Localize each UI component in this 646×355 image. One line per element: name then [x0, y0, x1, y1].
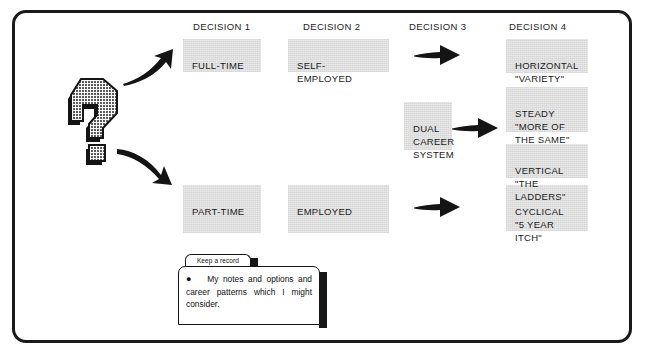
box-employed-label: EMPLOYED	[297, 206, 352, 217]
box-full-time-label: FULL-TIME	[192, 60, 244, 71]
note-body-text: My notes and options and career patterns…	[186, 274, 312, 309]
diagram-frame: DECISION 1 DECISION 2 DECISION 3 DECISIO…	[12, 10, 632, 343]
note-body: ● My notes and options and career patter…	[178, 266, 320, 325]
straight-arrow-decision3-top-icon	[414, 43, 462, 67]
straight-arrow-dual-career-icon	[452, 116, 500, 140]
column-header-decision-3: DECISION 3	[409, 21, 466, 32]
note-text-block: ● My notes and options and career patter…	[186, 273, 312, 311]
keep-a-record-note[interactable]: Keep a record ● My notes and options and…	[178, 254, 330, 326]
box-self-employed-label: SELF-EMPLOYED	[297, 60, 352, 84]
box-dual-career-system[interactable]: DUAL CAREER SYSTEM	[404, 102, 452, 150]
note-shadow	[319, 272, 327, 328]
box-cyclical-5-year-itch-label: CYCLICAL "5 YEAR ITCH"	[515, 206, 564, 243]
straight-arrow-decision3-bottom-icon	[414, 195, 462, 219]
note-bullet: ●	[186, 274, 194, 284]
box-part-time-label: PART-TIME	[192, 206, 245, 217]
curved-arrow-down-icon	[115, 145, 179, 189]
box-horizontal-variety-label: HORIZONTAL "VARIETY"	[515, 60, 579, 84]
column-header-decision-2: DECISION 2	[303, 21, 360, 32]
column-header-decision-1: DECISION 1	[193, 21, 250, 32]
box-vertical-the-ladders-label: VERTICAL "THE LADDERS"	[515, 165, 566, 202]
box-horizontal-variety[interactable]: HORIZONTAL "VARIETY"	[506, 39, 588, 73]
box-part-time[interactable]: PART-TIME	[183, 185, 261, 233]
box-steady-more-of-the-same-label: STEADY "MORE OF THE SAME"	[515, 108, 570, 145]
box-dual-career-system-label: DUAL CAREER SYSTEM	[413, 123, 454, 160]
box-vertical-the-ladders[interactable]: VERTICAL "THE LADDERS"	[506, 144, 588, 178]
box-self-employed[interactable]: SELF-EMPLOYED	[288, 39, 389, 72]
box-steady-more-of-the-same[interactable]: STEADY "MORE OF THE SAME"	[506, 87, 588, 132]
box-employed[interactable]: EMPLOYED	[288, 185, 389, 233]
box-full-time[interactable]: FULL-TIME	[183, 39, 261, 72]
note-tab-label: Keep a record	[186, 255, 250, 266]
curved-arrow-up-icon	[121, 47, 181, 87]
column-header-decision-4: DECISION 4	[509, 21, 566, 32]
